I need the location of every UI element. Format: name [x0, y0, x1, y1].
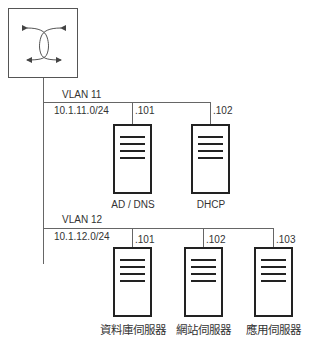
- server-host-address: .101: [135, 235, 154, 245]
- server-ad-dns: [113, 124, 152, 194]
- drop-line: [203, 228, 204, 247]
- vlan-11-name: VLAN 11: [62, 90, 101, 100]
- vlan-12-bus: [43, 228, 274, 229]
- server-dhcp: [191, 124, 230, 194]
- drop-line: [132, 102, 133, 124]
- drop-line: [273, 228, 274, 247]
- server-host-address: .103: [276, 235, 295, 245]
- vlan-11-subnet: 10.1.11.0/24: [54, 106, 109, 116]
- vlan-12-name: VLAN 12: [62, 215, 102, 225]
- vlan-11-bus: [43, 102, 211, 103]
- drop-line: [210, 102, 211, 124]
- drop-line: [132, 228, 133, 247]
- server-label: 資料庫伺服器: [98, 325, 168, 337]
- server-web: [184, 247, 223, 317]
- server-label: DHCP: [186, 200, 236, 210]
- server-label: AD / DNS: [108, 200, 158, 210]
- vlan-12-subnet: 10.1.12.0/24: [54, 232, 110, 242]
- server-database: [113, 247, 152, 317]
- server-application: [254, 247, 293, 317]
- server-host-address: .102: [206, 235, 225, 245]
- server-host-address: .102: [213, 106, 232, 116]
- network-switch: [8, 8, 78, 78]
- trunk-line: [43, 78, 44, 264]
- server-host-address: .101: [135, 106, 154, 116]
- server-label: 網站伺服器: [171, 325, 235, 337]
- server-label: 應用伺服器: [241, 325, 305, 337]
- switch-icon: [9, 9, 77, 77]
